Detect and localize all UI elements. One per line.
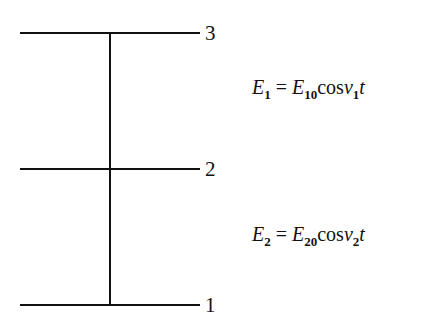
e1-rhs-var: E xyxy=(292,76,304,98)
equation-e2: E2 = E20cosν2t xyxy=(252,224,365,248)
level-diagram-lines xyxy=(0,0,438,326)
e1-equals: = xyxy=(276,76,287,98)
e1-lhs-sub: 1 xyxy=(264,87,271,102)
e2-rhs-var: E xyxy=(292,223,304,245)
e1-lhs-var: E xyxy=(252,76,264,98)
e2-func: cos xyxy=(317,223,344,245)
e1-func: cos xyxy=(317,76,344,98)
equation-e1: E1 = E10cosν1t xyxy=(252,77,365,101)
e2-rhs-sub: 20 xyxy=(304,234,317,249)
level-3-label: 3 xyxy=(205,23,216,44)
e2-time-var: t xyxy=(359,223,365,245)
e1-rhs-sub: 10 xyxy=(304,87,317,102)
e1-time-var: t xyxy=(359,76,365,98)
e2-equals: = xyxy=(276,223,287,245)
e2-lhs-var: E xyxy=(252,223,264,245)
level-1-label: 1 xyxy=(205,295,216,316)
e1-freq-var: ν xyxy=(344,76,353,98)
e2-lhs-sub: 2 xyxy=(264,234,271,249)
e2-freq-var: ν xyxy=(344,223,353,245)
level-2-label: 2 xyxy=(205,159,216,180)
